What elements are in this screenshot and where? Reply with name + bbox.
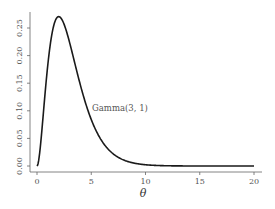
y-axis-ticks: 0.000.050.100.150.200.25 [15,19,30,175]
x-axis-title: θ [140,187,147,200]
gamma-density-curve [37,17,254,166]
x-tick-label: 15 [195,177,205,186]
curve-annotation: Gamma(3, 1) [92,103,148,113]
y-tick-label: 0.10 [15,102,24,120]
x-tick-label: 10 [140,177,150,186]
y-tick-label: 0.20 [15,47,24,65]
y-tick-label: 0.25 [15,19,24,37]
y-tick-label: 0.15 [15,74,24,92]
x-tick-label: 5 [89,177,94,186]
chart: 0.000.050.100.150.200.25 05101520 Gamma(… [0,0,275,209]
y-tick-label: 0.00 [15,157,24,175]
y-tick-label: 0.05 [15,129,24,147]
x-tick-label: 0 [34,177,39,186]
x-axis-ticks: 05101520 [34,172,259,186]
x-tick-label: 20 [249,177,259,186]
